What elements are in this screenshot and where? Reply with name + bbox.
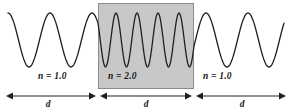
refraction-slab-figure: n = 1.0 n = 2.0 n = 1.0 d d d <box>0 0 290 112</box>
region-label-right: n = 1.0 <box>203 71 232 81</box>
dimension-label-left: d <box>38 99 58 109</box>
region-label-left: n = 1.0 <box>38 71 67 81</box>
region-label-middle: n = 2.0 <box>108 71 137 81</box>
dimension-label-middle: d <box>136 99 156 109</box>
figure-canvas <box>0 0 290 112</box>
dimension-label-right: d <box>232 99 252 109</box>
